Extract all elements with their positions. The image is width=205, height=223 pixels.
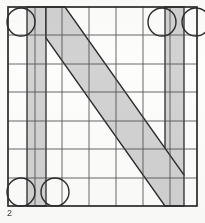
figure-container: 2 bbox=[0, 0, 205, 223]
right-vertical-band bbox=[165, 7, 184, 175]
left-vertical-band bbox=[27, 7, 46, 206]
figure-number-label: 2 bbox=[7, 207, 12, 219]
grid-figure-svg bbox=[0, 0, 205, 223]
figure-caption: 2 bbox=[0, 207, 205, 223]
